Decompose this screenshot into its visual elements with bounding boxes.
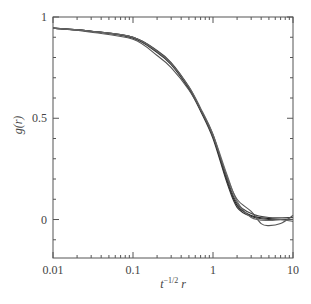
series-lines: [53, 28, 293, 225]
y-tick-label: 0.5: [32, 111, 47, 125]
y-tick-label: 0: [41, 213, 47, 227]
y-axis-label: g(r): [11, 116, 25, 135]
chart: 0.010.111000.51 t−1/2r g(r): [0, 0, 311, 304]
series-line-2: [53, 28, 293, 220]
axis-ticks: [53, 17, 293, 258]
series-line-3: [53, 28, 293, 218]
series-line-4: [53, 28, 293, 225]
x-axis-label-exponent: −1/2: [163, 276, 178, 285]
tick-labels: 0.010.111000.51: [32, 10, 299, 277]
x-tick-label: 1: [210, 263, 216, 277]
x-tick-label: 0.1: [126, 263, 141, 277]
y-tick-label: 1: [41, 10, 47, 24]
series-line-1: [53, 28, 293, 219]
x-axis-label: t−1/2r: [160, 276, 186, 291]
x-tick-label: 10: [287, 263, 299, 277]
x-tick-label: 0.01: [43, 263, 64, 277]
x-axis-label-r: r: [181, 277, 186, 291]
plot-frame: [53, 17, 293, 258]
series-line-5: [53, 28, 293, 221]
